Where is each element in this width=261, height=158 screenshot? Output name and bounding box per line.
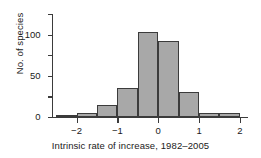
x-axis-tick [117, 118, 118, 123]
y-axis-tick: 100 [48, 35, 53, 36]
histogram-bar [179, 92, 199, 117]
y-axis-line [52, 14, 53, 117]
y-axis-tick [48, 14, 53, 15]
x-axis-tick-label: 0 [156, 125, 161, 136]
histogram-bar [97, 105, 117, 117]
x-axis-tick [240, 118, 241, 123]
histogram-bar [77, 113, 97, 117]
histogram-bar [56, 115, 76, 117]
x-axis-line [52, 117, 248, 118]
x-axis-tick-label: 2 [237, 125, 242, 136]
plot-area: 050100 −2−1012 [52, 14, 244, 117]
x-axis-tick-label: −1 [112, 125, 123, 136]
y-axis-tick-label: 0 [35, 111, 40, 122]
histogram-bar [138, 32, 158, 117]
histogram-bar [158, 41, 178, 117]
y-axis-tick [48, 96, 53, 97]
y-axis-tick-label: 100 [25, 29, 41, 40]
x-axis-tick [199, 118, 200, 123]
y-axis-tick-label: 50 [30, 70, 41, 81]
y-axis-tick [48, 55, 53, 56]
x-axis-title: Intrinsic rate of increase, 1982–2005 [0, 140, 261, 151]
x-axis-tick [77, 118, 78, 123]
histogram-bar [199, 113, 219, 117]
y-axis-tick: 0 [48, 117, 53, 118]
y-axis-title: No. of species [14, 0, 25, 99]
x-axis-tick [158, 118, 159, 123]
x-axis-tick-label: 1 [196, 125, 201, 136]
histogram-figure: No. of species 050100 −2−1012 Intrinsic … [0, 0, 261, 158]
y-axis-tick: 50 [48, 76, 53, 77]
x-axis-tick-label: −2 [71, 125, 82, 136]
histogram-bar [117, 88, 137, 117]
histogram-bar [219, 113, 239, 117]
